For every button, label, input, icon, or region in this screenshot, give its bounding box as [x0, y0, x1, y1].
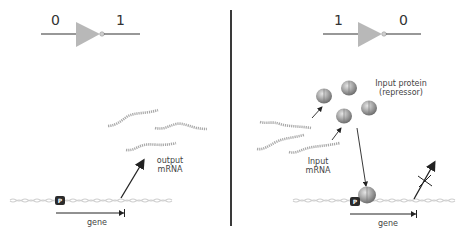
right-input-mrna — [257, 122, 340, 153]
left-output-mrna — [108, 110, 207, 150]
left-promoter: P — [55, 196, 65, 205]
right-gate-output-value: 0 — [399, 13, 408, 27]
protein-label-line1: Input protein — [370, 79, 432, 88]
left-gate-output-value: 1 — [116, 13, 125, 27]
left-gate-input-value: 0 — [51, 13, 60, 27]
protein-label-line2: (repressor) — [370, 88, 432, 97]
left-transcription-arrow — [121, 163, 142, 198]
panel-divider — [230, 10, 232, 226]
right-mrna-label-line1: Input — [300, 157, 336, 166]
right-mrna-label: Input mRNA — [300, 157, 336, 175]
left-mrna-label-line1: output — [150, 156, 190, 165]
right-mrna-label-line2: mRNA — [300, 166, 336, 175]
binding-arrow — [357, 128, 366, 186]
left-gene-label: gene — [82, 218, 112, 227]
inverter-diagram: 0 1 output mRNA P gene 1 0 Input protein… — [0, 0, 464, 238]
blocked-transcription-arrow — [414, 165, 433, 199]
translation-arrow-1 — [312, 107, 322, 118]
left-mrna-label: output mRNA — [150, 156, 190, 174]
left-mrna-label-line2: mRNA — [150, 165, 190, 174]
diagram-artwork — [0, 0, 464, 238]
protein-label: Input protein (repressor) — [370, 79, 432, 97]
right-gene-label: gene — [373, 219, 403, 228]
repressor-proteins — [316, 81, 377, 124]
translation-arrow-2 — [332, 128, 341, 140]
right-gate-input-value: 1 — [334, 13, 343, 27]
left-dna-strand — [10, 199, 172, 202]
bound-repressor — [358, 187, 376, 204]
right-promoter: P — [350, 197, 360, 206]
